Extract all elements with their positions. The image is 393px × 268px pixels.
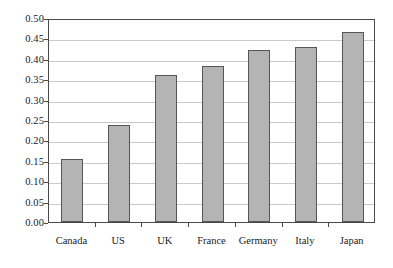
y-axis: 0.000.050.100.150.200.250.300.350.400.45… [0, 19, 44, 223]
y-axis-tick-label: 0.00 [2, 218, 44, 229]
x-axis-tick-label: US [111, 236, 124, 247]
x-axis-tick-label: UK [157, 236, 172, 247]
x-axis-tick-mark [141, 223, 142, 227]
bar [295, 47, 317, 222]
x-axis-tick-mark [282, 223, 283, 227]
x-axis-tick-label: Germany [239, 236, 278, 247]
y-axis-tick-label: 0.05 [2, 198, 44, 209]
y-axis-tick-label: 0.25 [2, 116, 44, 127]
x-axis-tick-label: France [197, 236, 226, 247]
bar [155, 75, 177, 222]
bar-chart: 0.000.050.100.150.200.250.300.350.400.45… [0, 0, 393, 268]
y-axis-tick-label: 0.50 [2, 14, 44, 25]
x-axis-tick-mark [95, 223, 96, 227]
y-axis-tick-label: 0.45 [2, 34, 44, 45]
y-axis-tick-label: 0.10 [2, 177, 44, 188]
y-axis-tick-label: 0.40 [2, 55, 44, 66]
x-axis-tick-label: Japan [340, 236, 364, 247]
x-axis-tick-mark [328, 223, 329, 227]
plot-area [48, 19, 375, 223]
y-axis-tick-label: 0.15 [2, 157, 44, 168]
x-axis-tick-mark [188, 223, 189, 227]
bar [248, 50, 270, 222]
gridline [49, 61, 374, 62]
gridline [49, 40, 374, 41]
x-axis: CanadaUSUKFranceGermanyItalyJapan [48, 223, 375, 268]
x-axis-tick-mark [235, 223, 236, 227]
bar [61, 159, 83, 222]
x-axis-tick-label: Canada [56, 236, 88, 247]
y-axis-tick-label: 0.30 [2, 96, 44, 107]
x-axis-tick-label: Italy [295, 236, 314, 247]
y-axis-tick-label: 0.20 [2, 136, 44, 147]
bar [342, 32, 364, 222]
bar [108, 125, 130, 222]
bar [202, 66, 224, 222]
y-axis-tick-label: 0.35 [2, 75, 44, 86]
